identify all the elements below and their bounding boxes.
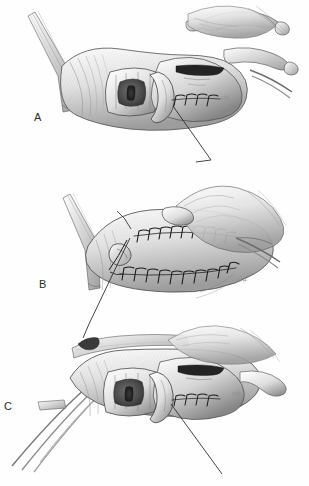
artist-signature-b: sig. [237,274,248,283]
panel-a [0,0,309,162]
figure-root: A B C sig. sig. sig. [0,0,309,486]
panel-label-a: A [34,111,42,123]
artist-signature-a: sig. [220,92,231,101]
panel-b [0,162,309,324]
panel-c [0,324,309,486]
artist-signature-c: sig. [231,388,242,397]
panel-label-c: C [4,400,12,412]
panel-label-b: B [39,278,47,290]
